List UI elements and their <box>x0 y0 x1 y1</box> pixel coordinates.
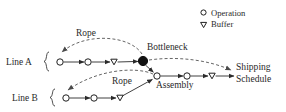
node-operation-a2[interactable] <box>85 59 91 65</box>
node-buffer-b3[interactable] <box>117 95 123 101</box>
operation-icon <box>201 10 206 15</box>
flow-diagram-svg: Operation Buffer Rope Rope Line A <box>0 0 286 112</box>
legend-label-buffer: Buffer <box>211 19 233 29</box>
rope-curve-top <box>62 38 142 54</box>
node-assembly[interactable] <box>154 73 160 79</box>
legend: Operation Buffer <box>201 8 246 29</box>
line-a-brace <box>44 52 49 71</box>
brace-shape-b <box>50 89 55 106</box>
node-operation-b2[interactable] <box>91 95 97 101</box>
rope-edge-line-a <box>62 38 142 54</box>
legend-label-operation: Operation <box>211 8 246 18</box>
rope-label-top: Rope <box>76 28 96 38</box>
line-a-chain <box>57 59 138 65</box>
edge-bn-assembly <box>146 65 154 72</box>
brace-shape-a <box>44 52 49 71</box>
node-bottleneck[interactable] <box>138 56 147 65</box>
buffer-icon <box>201 22 207 27</box>
line-b-label: Line B <box>12 93 38 103</box>
shipping-schedule-line1: Shipping <box>236 61 271 72</box>
node-buffer-a3[interactable] <box>111 59 117 65</box>
rope-edge-line-b <box>68 70 153 90</box>
node-buffer-s2[interactable] <box>209 73 215 79</box>
shipping-to-bottleneck-edge <box>149 58 231 70</box>
line-a-label: Line A <box>6 57 32 67</box>
rope-label-bottom: Rope <box>112 76 132 86</box>
shipping-feedback-curve <box>149 58 231 70</box>
node-operation-b1[interactable] <box>63 95 69 101</box>
assembly-chain <box>154 73 234 79</box>
bottleneck-label: Bottleneck <box>147 42 188 52</box>
rope-curve-bottom <box>68 70 153 90</box>
assembly-label: Assembly <box>156 80 194 90</box>
shipping-schedule-line2: Schedule <box>236 73 271 84</box>
node-operation-a1[interactable] <box>57 59 63 65</box>
edge-a3-bn <box>118 61 138 62</box>
node-operation-s1[interactable] <box>184 73 190 79</box>
line-b-brace <box>50 89 55 106</box>
line-b-chain <box>63 79 153 101</box>
diagram-canvas: Operation Buffer Rope Rope Line A <box>0 0 286 112</box>
